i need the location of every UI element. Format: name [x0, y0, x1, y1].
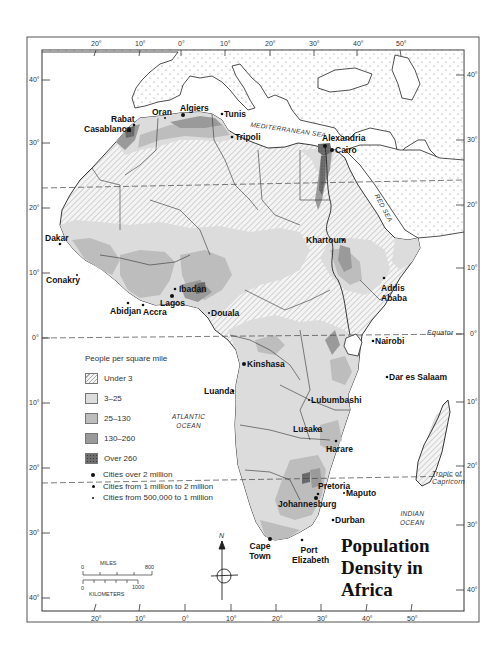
city-label-abidjan: Abidjan	[110, 307, 141, 316]
scale-km-start: 0	[81, 586, 84, 592]
city-dot-tripoli	[231, 136, 234, 139]
city-dot-kinshasa	[242, 362, 246, 366]
left-latitude-label: 30°	[29, 529, 40, 536]
right-latitude-label: 10°	[467, 398, 478, 405]
city-label-durban: Durban	[335, 516, 365, 525]
legend-city-small: Cities from 500,000 to 1 million	[91, 493, 213, 502]
legend-label: 130–260	[104, 434, 135, 443]
city-dot-alexandria	[323, 144, 327, 148]
city-label-nairobi: Nairobi	[375, 337, 404, 346]
legend-city-large: Cities over 2 million	[91, 470, 172, 479]
bottom-longitude-label: 30°	[317, 615, 328, 622]
map-title-line1: Population	[341, 535, 430, 557]
swatch-25-130	[85, 413, 98, 424]
swatch-130-260	[85, 433, 98, 444]
bottom-longitude-label: 20°	[91, 615, 102, 622]
legend-item-130-260: 130–260	[85, 433, 135, 444]
top-longitude-label: 10°	[135, 40, 146, 47]
city-dot-tunis	[221, 113, 224, 116]
city-label-dakar: Dakar	[45, 234, 69, 243]
top-longitude-label: 20°	[265, 40, 276, 47]
legend-title: People per square mile	[85, 355, 167, 363]
left-latitude-label: 10°	[29, 269, 40, 276]
city-label-maputo: Maputo	[346, 489, 376, 498]
indian-ocean-label-line2: OCEAN	[400, 520, 425, 527]
city-dot-dakar	[59, 243, 62, 246]
map-title-line3: Africa	[341, 579, 430, 601]
small-dot-icon	[92, 497, 94, 499]
city-dot-harare	[335, 440, 338, 443]
city-dot-abidjan	[127, 302, 130, 305]
city-label-cairo: Cairo	[335, 146, 357, 155]
city-dot-algiers	[181, 113, 185, 117]
city-label-kinshasa: Kinshasa	[247, 360, 285, 369]
medium-dot-icon	[92, 485, 95, 488]
city-label-oran: Oran	[152, 108, 172, 117]
city-dot-durban	[332, 519, 335, 522]
city-label-tunis: Tunis	[224, 110, 246, 119]
capricorn-label-line2: Capricorn	[432, 478, 465, 485]
legend-item-3-25: 3–25	[85, 393, 122, 404]
scale-miles-end: 800	[145, 565, 154, 571]
legend-label: 3–25	[104, 394, 122, 403]
left-latitude-label: 10°	[29, 399, 40, 406]
legend-label: Cities from 500,000 to 1 million	[103, 493, 213, 502]
city-label-alexandria: Alexandria	[322, 134, 365, 143]
left-latitude-label: 20°	[29, 204, 40, 211]
left-latitude-label: 40°	[29, 76, 40, 83]
city-label-luanda: Luanda	[204, 387, 234, 396]
top-longitude-label: 40°	[353, 40, 364, 47]
atlantic-ocean-label-line1: ATLANTIC	[172, 414, 205, 421]
right-latitude-label: 40°	[467, 586, 478, 593]
map-title: Population Density in Africa	[341, 535, 430, 601]
legend-label: Under 3	[104, 374, 132, 383]
city-dot-rabat	[133, 124, 136, 127]
right-latitude-label: 10°	[467, 264, 478, 271]
legend-label: Cities over 2 million	[103, 470, 172, 479]
city-label-line: Addis	[381, 283, 407, 293]
right-latitude-label: 30°	[467, 521, 478, 528]
legend-item-25-130: 25–130	[85, 413, 131, 424]
city-label-algiers: Algiers	[180, 104, 209, 113]
city-label-conakry: Conakry	[46, 276, 80, 285]
left-latitude-label: 0°	[32, 334, 39, 341]
indian-ocean-label-line1: INDIAN	[400, 511, 425, 518]
city-dot-oran	[164, 117, 166, 119]
city-label-addis-ababa: AddisAbaba	[381, 283, 407, 303]
city-label-cape-town: Cape Town	[248, 541, 272, 561]
top-longitude-label: 50°	[396, 40, 407, 47]
city-dot-maputo	[343, 492, 345, 494]
atlantic-ocean-label: ATLANTIC OCEAN	[172, 414, 205, 429]
right-latitude-label: 20°	[467, 201, 478, 208]
right-latitude-label: 40°	[467, 71, 478, 78]
city-label-casablanca: Casablanca	[84, 125, 131, 134]
city-dot-cairo	[330, 148, 334, 152]
legend-label: Over 260	[104, 454, 137, 463]
compass-north-label: N	[219, 532, 224, 539]
city-dot-ibadan	[174, 288, 177, 291]
indian-ocean-label: INDIAN OCEAN	[400, 511, 425, 526]
city-label-lubumbashi: Lubumbashi	[311, 396, 362, 405]
atlantic-ocean-label-line2: OCEAN	[172, 423, 205, 430]
top-longitude-label: 20°	[91, 40, 102, 47]
city-dot-accra	[142, 304, 145, 307]
bottom-longitude-label: 50°	[407, 615, 418, 622]
legend-label: 25–130	[104, 414, 131, 423]
tropic-of-capricorn-label: Tropic of Capricorn	[432, 470, 465, 485]
city-dot-nairobi	[372, 340, 375, 343]
equator-label: Equator	[427, 329, 454, 336]
scale-km-end: 1000	[132, 585, 144, 591]
city-label-khartoum: Khartoum	[306, 236, 346, 245]
city-label-rabat: Rabat	[111, 115, 135, 124]
right-latitude-label: 20°	[467, 462, 478, 469]
bottom-longitude-label: 10°	[226, 615, 237, 622]
legend-label: Cities from 1 million to 2 million	[103, 482, 213, 491]
city-dot-dar-es-salaam	[386, 376, 389, 379]
city-label-lusaka: Lusaka	[293, 425, 322, 434]
city-label-dar-es-salaam: Dar es Salaam	[389, 373, 447, 382]
city-label-douala: Douala	[211, 309, 239, 318]
city-label-port-elizabeth: Port Elizabeth	[292, 545, 326, 565]
bottom-longitude-label: 20°	[272, 615, 283, 622]
map-title-line2: Density in	[341, 557, 430, 579]
swatch-over-260	[85, 453, 98, 464]
